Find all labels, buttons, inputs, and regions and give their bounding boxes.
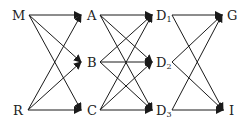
node-label: B (87, 55, 97, 70)
node-g: G (227, 9, 237, 22)
edge-d2-to-i (172, 62, 223, 110)
node-label: M (12, 8, 25, 23)
node-label: D (156, 8, 166, 23)
node-r: R (13, 104, 23, 117)
node-subscript: 2 (166, 62, 171, 71)
node-b: B (87, 56, 97, 69)
node-subscript: 1 (166, 15, 171, 24)
node-i: I (229, 104, 234, 117)
node-label: D (156, 103, 166, 118)
node-label: C (87, 103, 97, 118)
node-a: A (87, 9, 96, 22)
node-label: R (13, 103, 23, 118)
node-label: I (229, 103, 234, 118)
node-subscript: 3 (166, 110, 171, 119)
edge-d2-to-g (172, 15, 222, 62)
node-d2: D2 (156, 56, 172, 71)
node-m: M (12, 9, 25, 22)
edges-layer (0, 0, 248, 126)
diagram-canvas: MRABCD1D2D3GI (0, 0, 248, 126)
node-label: G (227, 8, 237, 23)
node-d3: D3 (156, 104, 172, 119)
edge-m-to-b (29, 15, 81, 62)
node-d1: D1 (156, 9, 172, 24)
node-label: D (156, 55, 166, 70)
node-label: A (87, 8, 96, 23)
node-c: C (87, 104, 97, 117)
edge-r-to-b (28, 62, 81, 110)
